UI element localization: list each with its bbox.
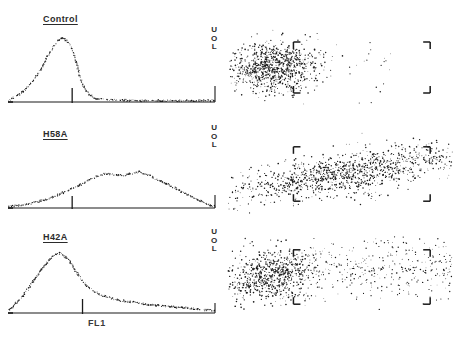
panel-label-h58a: H58A (43, 129, 68, 139)
x-axis-label-fl1: FL1 (88, 318, 106, 328)
uol-axis-h58a: U O L (211, 124, 217, 150)
histogram-control (8, 30, 229, 112)
flow-cytometry-figure: Control U O L H58A U O L H42A U O L FL1 (0, 0, 453, 344)
panel-label-control: Control (43, 14, 78, 24)
uol-axis-control: U O L (211, 26, 217, 52)
scatter-h58a (232, 134, 450, 214)
histogram-h58a (8, 140, 229, 218)
panel-label-h42a: H42A (43, 232, 68, 242)
scatter-h42a (232, 237, 450, 317)
uol-axis-h42a: U O L (211, 228, 217, 254)
scatter-control (232, 30, 450, 105)
uol-lower: L (211, 245, 217, 254)
histogram-h42a (8, 243, 229, 323)
uol-lower: L (211, 141, 217, 150)
uol-lower: L (211, 43, 217, 52)
